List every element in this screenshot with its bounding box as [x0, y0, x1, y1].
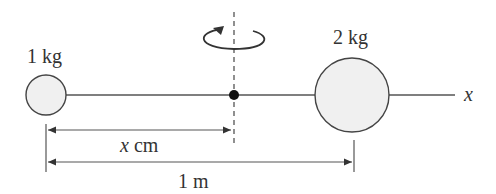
mass-2kg: [315, 58, 389, 132]
dimension-1m-label: 1 m: [178, 170, 209, 192]
rotation-arrow-icon: [204, 26, 265, 49]
mass-1kg: [26, 75, 66, 115]
rotating-rod-diagram: 1 kg 2 kg x x cm 1 m: [0, 0, 496, 194]
dimension-x-cm-label: x cm: [119, 134, 159, 156]
mass-2kg-label: 2 kg: [333, 26, 368, 49]
x-axis-label: x: [463, 83, 473, 105]
mass-1kg-label: 1 kg: [27, 45, 62, 68]
pivot-point: [229, 90, 239, 100]
